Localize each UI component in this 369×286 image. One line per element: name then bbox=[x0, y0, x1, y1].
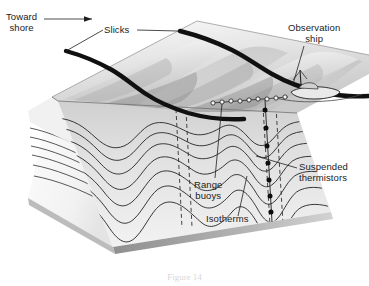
thermistor-dot bbox=[269, 210, 274, 215]
toward-shore-arrow-head bbox=[84, 16, 92, 21]
label-range-buoys: Range buoys bbox=[194, 180, 223, 201]
thermistor-dot bbox=[263, 108, 268, 113]
range-buoy bbox=[238, 99, 242, 103]
range-buoy bbox=[247, 98, 251, 102]
range-buoy bbox=[265, 97, 269, 101]
range-buoy bbox=[229, 99, 233, 103]
label-isotherms: Isotherms bbox=[206, 214, 249, 225]
thermistor-dot bbox=[267, 178, 272, 183]
range-buoy bbox=[211, 101, 215, 105]
thermistor-dot bbox=[266, 161, 271, 166]
figure-root: Toward shore Slicks Observation ship Sus… bbox=[0, 0, 369, 286]
range-buoy bbox=[283, 95, 287, 99]
label-slicks: Slicks bbox=[104, 25, 129, 36]
range-buoy bbox=[274, 96, 278, 100]
water-block bbox=[28, 16, 369, 254]
range-buoy bbox=[256, 97, 260, 101]
slicks-leader-right bbox=[137, 30, 178, 31]
thermistor-dot bbox=[264, 126, 269, 131]
figure-caption: Figure 14 bbox=[0, 272, 369, 282]
label-toward-shore: Toward shore bbox=[6, 12, 37, 33]
thermistor-dot bbox=[265, 144, 270, 149]
slicks-leader-left bbox=[66, 30, 103, 51]
thermistor-dot bbox=[268, 194, 273, 199]
label-suspended-thermistors: Suspended thermistors bbox=[299, 162, 348, 183]
label-observation-ship: Observation ship bbox=[288, 23, 340, 44]
range-buoy bbox=[220, 100, 224, 104]
